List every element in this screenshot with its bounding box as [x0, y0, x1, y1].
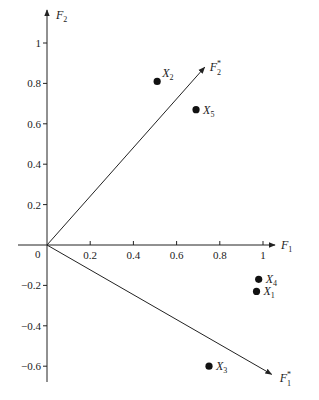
y-tick-label: −0.2	[21, 279, 41, 291]
y-tick-label: 0.8	[27, 77, 41, 89]
rotated-axis-label-f1: F*1	[279, 370, 291, 388]
y-tick-label: 1	[36, 37, 42, 49]
point-x1	[253, 288, 260, 295]
x-tick-label: 0.8	[213, 249, 227, 261]
point-x5	[192, 106, 199, 113]
origin-label: 0	[35, 248, 41, 260]
data-points: X1X2X3X4X5	[154, 66, 277, 375]
rotated-axes: F*2F*1	[47, 59, 291, 388]
x-tick-label: 0.2	[83, 249, 97, 261]
point-x3	[205, 363, 212, 370]
point-label-x3: X3	[215, 359, 227, 375]
y-tick-label: 0.2	[27, 199, 41, 211]
point-x4	[255, 276, 262, 283]
y-tick-label: −0.4	[21, 320, 41, 332]
rotated-axis-f2	[47, 67, 205, 245]
rotated-axis-label-f2: F*2	[209, 59, 221, 77]
x-tick-label: 0.6	[170, 249, 184, 261]
point-x2	[154, 78, 161, 85]
point-label-x5: X5	[202, 103, 214, 119]
point-label-x4: X4	[265, 272, 277, 288]
axes: F2F10	[18, 8, 292, 382]
y-tick-label: −0.6	[21, 360, 41, 372]
x-tick-label: 0.4	[127, 249, 141, 261]
tick-marks: 0.20.40.60.8110.80.60.40.2−0.2−0.4−0.6	[21, 37, 266, 372]
y-tick-label: 0.4	[27, 158, 41, 170]
rotated-axis-f1	[47, 245, 272, 374]
x-axis-label: F1	[280, 238, 292, 254]
x-tick-label: 1	[260, 249, 266, 261]
factor-loading-diagram: F2F10 0.20.40.60.8110.80.60.40.2−0.2−0.4…	[0, 0, 319, 400]
point-label-x2: X2	[161, 66, 173, 82]
y-axis-label: F2	[55, 8, 67, 24]
y-tick-label: 0.6	[27, 118, 41, 130]
